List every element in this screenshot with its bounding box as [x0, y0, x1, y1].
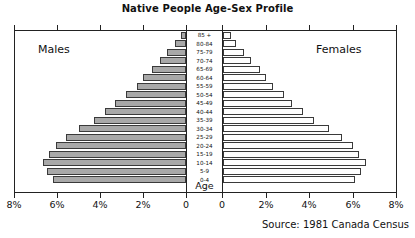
female-bar-row [223, 65, 396, 74]
female-bar-row [223, 133, 396, 142]
female-axis-tick [396, 193, 397, 198]
female-bar-row [223, 48, 396, 57]
male-bar-row [15, 99, 186, 108]
female-bar [223, 83, 273, 90]
age-group-label: 35-39 [186, 116, 223, 125]
female-bar-row [223, 31, 396, 40]
male-bar [152, 66, 186, 73]
female-axis-tick [266, 193, 267, 198]
female-bar-row [223, 57, 396, 66]
male-bar-row [15, 82, 186, 91]
female-bar [223, 74, 266, 81]
male-bar [105, 108, 186, 115]
male-bar-row [15, 133, 186, 142]
female-bar [223, 125, 329, 132]
male-bar [53, 176, 186, 183]
female-bar-row [223, 99, 396, 108]
male-bar-row [15, 142, 186, 151]
male-bar [43, 159, 186, 166]
population-pyramid-chart: Native People Age-Sex Profile 85 +80-847… [0, 0, 415, 238]
male-bar-row [15, 167, 186, 176]
age-group-label: 50-54 [186, 91, 223, 100]
female-axis-tick-label: 2% [251, 199, 281, 210]
age-label-column: 85 +80-8475-7970-7465-6960-6455-5950-544… [186, 31, 223, 192]
male-axis-tick-label: 8% [0, 199, 29, 210]
male-bar-row [15, 176, 186, 185]
males-caption: Males [38, 43, 70, 56]
male-bar [143, 74, 186, 81]
female-axis-tick [396, 25, 397, 30]
male-bar [137, 83, 186, 90]
male-bar [94, 117, 186, 124]
age-group-label: 30-34 [186, 125, 223, 134]
age-group-label: 45-49 [186, 99, 223, 108]
female-axis-tick [353, 193, 354, 198]
age-group-label: 10-14 [186, 159, 223, 168]
female-bar [223, 168, 361, 175]
age-group-label: 55-59 [186, 82, 223, 91]
female-bar [223, 91, 284, 98]
male-axis-tick [57, 25, 58, 30]
male-bar-row [15, 91, 186, 100]
male-bar-row [15, 31, 186, 40]
female-axis-tick [266, 25, 267, 30]
male-axis-tick-label: 2% [128, 199, 158, 210]
male-bar [66, 134, 186, 141]
female-bar-row [223, 108, 396, 117]
female-bar [223, 100, 292, 107]
female-bar-row [223, 150, 396, 159]
male-axis-tick [100, 193, 101, 198]
age-group-label: 65-69 [186, 65, 223, 74]
male-axis-tick-label: 4% [85, 199, 115, 210]
female-bar-row [223, 116, 396, 125]
female-bar [223, 40, 236, 47]
female-bar-row [223, 40, 396, 49]
male-bar-row [15, 116, 186, 125]
female-bar [223, 142, 353, 149]
female-axis-tick [353, 25, 354, 30]
age-group-label: 5-9 [186, 167, 223, 176]
female-axis-tick [309, 193, 310, 198]
female-bar [223, 32, 231, 39]
male-bar [47, 168, 186, 175]
female-bars-panel [223, 31, 396, 192]
male-bar-row [15, 65, 186, 74]
female-axis-tick-label: 4% [294, 199, 324, 210]
male-bar-row [15, 57, 186, 66]
source-note: Source: 1981 Canada Census [262, 219, 409, 230]
age-group-label: 80-84 [186, 40, 223, 49]
female-bar [223, 66, 260, 73]
female-bar-row [223, 176, 396, 185]
male-bar-row [15, 159, 186, 168]
age-group-label: 85 + [186, 31, 223, 40]
age-group-label: 75-79 [186, 48, 223, 57]
male-axis-tick [143, 193, 144, 198]
female-bar [223, 151, 359, 158]
male-bar [79, 125, 186, 132]
male-zero-axis [186, 30, 187, 193]
male-bar [160, 57, 186, 64]
male-bar [175, 40, 186, 47]
female-axis-tick [222, 193, 223, 198]
female-axis-tick [309, 25, 310, 30]
female-bar-row [223, 82, 396, 91]
age-group-label: 70-74 [186, 57, 223, 66]
male-axis-tick [186, 193, 187, 198]
female-bar-row [223, 91, 396, 100]
male-axis-tick [14, 25, 15, 30]
male-axis-tick [14, 193, 15, 198]
male-bar-row [15, 108, 186, 117]
male-axis-tick [57, 193, 58, 198]
female-zero-axis [222, 30, 223, 193]
male-bar-row [15, 125, 186, 134]
female-bar [223, 159, 366, 166]
male-axis-tick [143, 25, 144, 30]
male-bar [126, 91, 186, 98]
female-bar [223, 117, 314, 124]
male-axis-tick [100, 25, 101, 30]
age-group-label: 15-19 [186, 150, 223, 159]
female-bar [223, 49, 244, 56]
age-group-label: 40-44 [186, 108, 223, 117]
female-bar [223, 134, 342, 141]
male-bar [167, 49, 186, 56]
